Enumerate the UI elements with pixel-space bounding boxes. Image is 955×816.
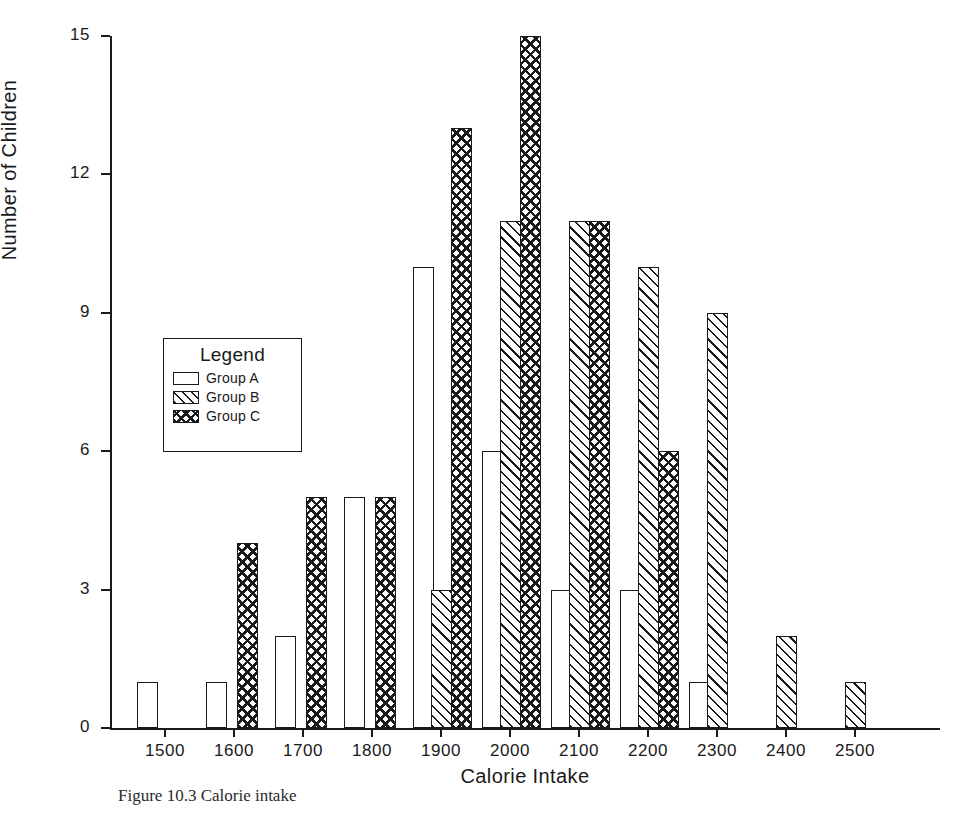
legend-entry-label: Group C — [206, 408, 260, 424]
bar-group-c — [520, 36, 541, 728]
bar-group-c — [306, 497, 327, 728]
x-axis-tick — [233, 728, 235, 737]
legend-entries: Group AGroup BGroup C — [164, 370, 301, 427]
bar-group-b — [431, 590, 452, 728]
bar-group-c — [658, 451, 679, 728]
bar-group-c — [451, 128, 472, 728]
x-axis-tick-label: 1700 — [283, 741, 323, 761]
x-axis-tick — [164, 728, 166, 737]
y-axis-tick-label: 6 — [0, 440, 90, 460]
bar-group-c — [237, 543, 258, 728]
x-axis-title: Calorie Intake — [110, 765, 940, 788]
legend-box: Legend Group AGroup BGroup C — [163, 338, 302, 452]
y-axis-tick — [101, 35, 110, 37]
y-axis-tick-label: 3 — [0, 579, 90, 599]
x-axis-tick — [509, 728, 511, 737]
figure-histogram: Number of Children 03691215 150016001700… — [0, 0, 955, 816]
x-axis-tick-label: 1800 — [352, 741, 392, 761]
legend-title: Legend — [164, 344, 301, 366]
legend-swatch-icon — [173, 410, 199, 423]
legend-entry-label: Group A — [206, 370, 259, 386]
y-axis-tick-label: 0 — [0, 717, 90, 737]
bar-group-c — [589, 221, 610, 728]
x-axis-tick — [578, 728, 580, 737]
x-axis-tick-label: 2200 — [628, 741, 668, 761]
y-axis-tick — [101, 727, 110, 729]
legend-entry: Group B — [164, 389, 301, 408]
legend-entry: Group A — [164, 370, 301, 389]
legend-entry-label: Group B — [206, 389, 260, 405]
bar-group-c — [375, 497, 396, 728]
x-axis-tick-label: 2000 — [490, 741, 530, 761]
x-axis-tick-label: 2100 — [559, 741, 599, 761]
bar-group-a — [206, 682, 227, 728]
x-axis-tick-label: 1600 — [214, 741, 254, 761]
y-axis-tick-label: 9 — [0, 302, 90, 322]
bar-group-b — [569, 221, 590, 728]
x-axis-tick-label: 2500 — [835, 741, 875, 761]
bar-group-a — [137, 682, 158, 728]
bar-group-b — [500, 221, 521, 728]
x-axis-tick — [302, 728, 304, 737]
x-axis-tick — [371, 728, 373, 737]
legend-entry: Group C — [164, 408, 301, 427]
bar-group-b — [845, 682, 866, 728]
x-axis-tick-label: 1900 — [421, 741, 461, 761]
x-axis-tick — [854, 728, 856, 737]
bar-group-b — [638, 267, 659, 728]
y-axis-tick — [101, 312, 110, 314]
legend-swatch-icon — [173, 372, 199, 385]
bar-group-b — [707, 313, 728, 728]
y-axis-tick-label: 12 — [0, 163, 90, 183]
bar-group-a — [344, 497, 365, 728]
y-axis-tick-label: 15 — [0, 25, 90, 45]
x-axis-tick — [716, 728, 718, 737]
y-axis-tick — [101, 173, 110, 175]
x-axis-tick-label: 1500 — [145, 741, 185, 761]
x-axis-tick — [647, 728, 649, 737]
x-axis-tick-label: 2300 — [697, 741, 737, 761]
y-axis-tick — [101, 589, 110, 591]
x-axis-tick — [440, 728, 442, 737]
x-axis-tick-label: 2400 — [766, 741, 806, 761]
bar-group-b — [776, 636, 797, 728]
bar-group-a — [275, 636, 296, 728]
figure-caption: Figure 10.3 Calorie intake — [118, 786, 818, 806]
legend-swatch-icon — [173, 391, 199, 404]
x-axis-tick — [785, 728, 787, 737]
y-axis-tick — [101, 450, 110, 452]
